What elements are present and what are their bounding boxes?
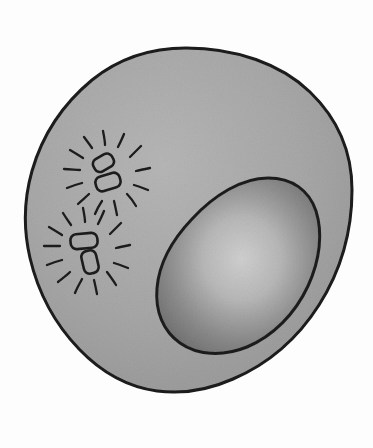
- figure-canvas: Hand drawn diagram of a rounded cell con…: [0, 0, 373, 448]
- cell-diagram: [0, 0, 373, 448]
- ray: [64, 169, 80, 170]
